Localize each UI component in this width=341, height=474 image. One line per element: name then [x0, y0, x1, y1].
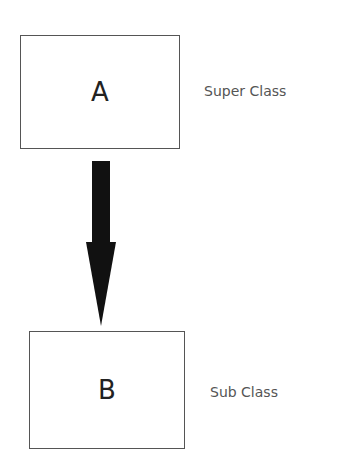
sub-class-label: Sub Class	[210, 384, 278, 400]
class-box-b: B	[29, 331, 185, 449]
class-b-label: B	[98, 375, 116, 405]
